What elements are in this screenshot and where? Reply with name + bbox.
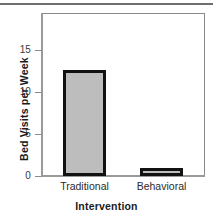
y-tick-mark-10 (35, 92, 41, 93)
bar-behavioral (140, 168, 183, 176)
y-tick-mark-15 (35, 50, 41, 51)
bar-chart-figure: 15 10 5 0 Bed Visits per Week Traditiona… (0, 0, 213, 218)
scan-rule-divider (0, 3, 213, 5)
y-tick-mark-0 (35, 176, 41, 177)
x-tick-label-behavioral: Behavioral (122, 180, 201, 192)
y-tick-mark-5 (35, 134, 41, 135)
bar-traditional (63, 70, 106, 176)
y-axis-title: Bed Visits per Week (18, 29, 30, 189)
x-tick-label-traditional: Traditional (45, 180, 124, 192)
y-axis-line (41, 13, 43, 177)
x-axis-title: Intervention (0, 200, 213, 212)
